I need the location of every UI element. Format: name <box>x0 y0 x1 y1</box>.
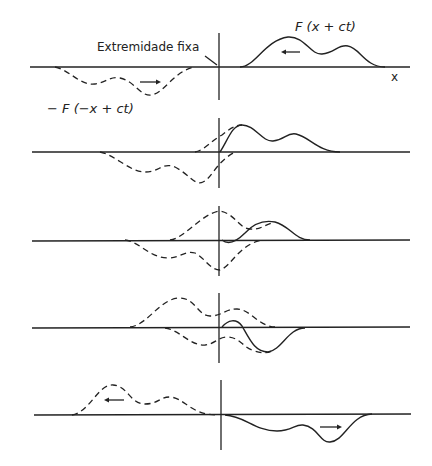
baseline <box>34 414 411 415</box>
panel-4 <box>32 293 410 363</box>
panel-2 <box>32 118 410 188</box>
reflected-image-pulse <box>72 385 218 415</box>
arrow-right-head <box>337 425 342 430</box>
reflected-pulse <box>225 414 372 442</box>
panel-1: Extremidade fixa F (x + ct) x − F (−x + … <box>30 19 410 116</box>
x-axis-label: x <box>391 70 398 84</box>
resultant <box>222 321 305 352</box>
baseline <box>32 240 410 241</box>
wave-reflection-diagram: Extremidade fixa F (x + ct) x − F (−x + … <box>0 0 432 466</box>
reflected-wave-label: − F (−x + ct) <box>47 101 134 116</box>
forward-wave-label: F (x + ct) <box>295 19 356 34</box>
forward-pulse <box>220 125 340 152</box>
arrow-left-head <box>281 50 286 55</box>
image-pulse <box>100 152 235 183</box>
baseline <box>32 327 410 328</box>
panel-5 <box>34 380 411 450</box>
image-pulse <box>55 67 195 95</box>
forward-pulse <box>240 37 385 67</box>
image-pulse <box>125 240 262 270</box>
arrow-right-head <box>156 80 161 85</box>
arrow-left-head <box>104 398 109 403</box>
panel-3 <box>32 206 410 276</box>
image-upper <box>170 211 272 240</box>
resultant <box>222 221 310 242</box>
image-upper <box>130 298 275 327</box>
fixed-end-label: Extremidade fixa <box>97 40 199 54</box>
pointer-line <box>205 56 217 65</box>
